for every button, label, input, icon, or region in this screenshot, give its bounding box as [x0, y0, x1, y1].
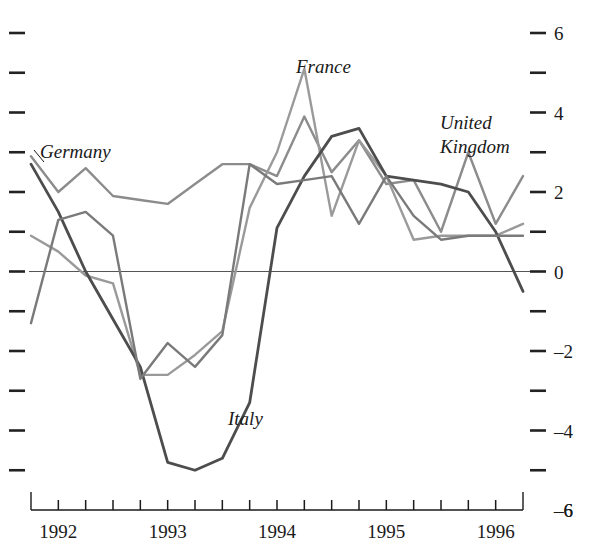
x-axis-label-1993: 1993 [149, 521, 187, 542]
x-axis-year-labels: 19921993199419951996–6 [39, 500, 573, 542]
x-axis-label-1996: 1996 [477, 521, 515, 542]
y-axis-label-neg2: –2 [553, 341, 573, 362]
x-axis-label-1994: 1994 [258, 521, 297, 542]
y-axis-label-neg4: –4 [553, 421, 574, 442]
y-axis-label-neg6: –6 [553, 500, 573, 521]
left-axis-ticks [9, 33, 25, 470]
y-axis-label-0: 0 [554, 262, 564, 283]
x-axis-label-1992: 1992 [39, 521, 77, 542]
series-label-united-kingdom: United [440, 112, 492, 133]
y-axis-label-6: 6 [554, 23, 564, 44]
right-axis-tick-labels: –6–4–20246 [553, 23, 574, 521]
chart-container: –6–4–20246 19921993199419951996–6 German… [0, 0, 596, 556]
series-label-france: France [295, 56, 351, 77]
series-line-italy [31, 128, 523, 470]
x-axis [31, 492, 523, 510]
series-line-germany [31, 116, 523, 231]
y-axis-label-4: 4 [554, 103, 564, 124]
y-axis-label-2: 2 [554, 182, 564, 203]
series-label-germany: Germany [40, 141, 111, 162]
right-axis-ticks [530, 33, 546, 470]
series-label-united-kingdom: Kingdom [439, 136, 510, 157]
x-axis-label-1995: 1995 [367, 521, 405, 542]
line-chart: –6–4–20246 19921993199419951996–6 German… [0, 0, 596, 556]
series-annotations: GermanyFranceItalyUnitedKingdom [34, 56, 510, 429]
series-label-italy: Italy [227, 408, 263, 429]
